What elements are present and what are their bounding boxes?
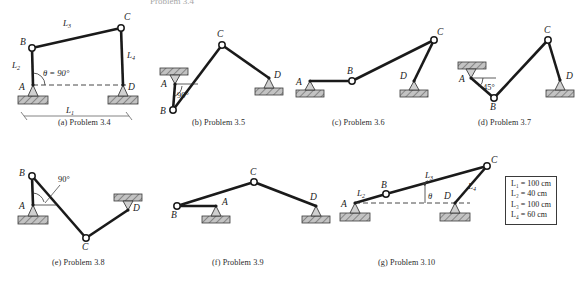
label-d-angle: 45° [483, 83, 495, 92]
diagram-f: A B C D [171, 167, 330, 223]
label-g-C: C [491, 155, 498, 165]
caption-g: (g) Problem 3.10 [378, 258, 435, 267]
link-e-CD [86, 210, 128, 238]
link-lengths-legend: L₁ = 100 cm L₂ = 40 cm L₃ = 100 cm L₄ = … [505, 176, 557, 225]
link-b-BC [173, 45, 222, 110]
label-c-D: D [399, 71, 407, 81]
joint-g-C [484, 163, 490, 169]
legend-row-L2: L₂ = 40 cm [511, 189, 551, 199]
label-a-A: A [18, 82, 25, 92]
joint-g-B [383, 191, 389, 197]
label-d-B: B [490, 102, 496, 112]
joint-b-D [267, 76, 270, 79]
ground-support-g-D [440, 203, 470, 221]
link-b-CD [222, 45, 269, 78]
joint-e-B [29, 173, 35, 179]
ground-support-f-D [302, 206, 330, 223]
joint-b-B [170, 107, 176, 113]
joint-e-A [31, 203, 34, 206]
figure-canvas: A B C D L2 L3 L4 L1 θ = 90° A B C D 90° [0, 0, 588, 281]
label-a-D: D [127, 82, 135, 92]
label-e-D: D [132, 203, 140, 213]
diagram-e: A B C D 90° [18, 168, 142, 252]
caption-a: (a) Problem 3.4 [58, 118, 111, 127]
link-f-CD [254, 182, 316, 206]
joint-c-A [308, 79, 311, 82]
label-b-angle: 90° [177, 91, 189, 100]
label-a-L3: L3 [62, 18, 71, 29]
label-f-B: B [171, 210, 177, 220]
label-f-A: A [221, 197, 228, 207]
joint-a-D [121, 83, 124, 86]
label-e-A: A [18, 201, 25, 211]
ground-support-b-D [255, 78, 283, 95]
label-e-B: B [19, 168, 25, 178]
label-b-B: B [160, 106, 166, 116]
label-g-A: A [340, 199, 347, 209]
joint-g-D [453, 201, 456, 204]
joint-f-A [214, 204, 217, 207]
angle-arc-e [33, 193, 44, 202]
mechanism-problems-figure: Problem 3.4 [0, 0, 588, 281]
link-f-BC [177, 182, 254, 206]
joint-g-A [353, 201, 356, 204]
label-g-D: D [443, 191, 451, 201]
joint-e-C [83, 235, 89, 241]
label-f-C: C [250, 167, 257, 177]
joint-f-D [314, 204, 317, 207]
label-c-B: B [347, 66, 353, 76]
diagram-g: A B C D L2 L3 L4 θ [340, 155, 498, 221]
label-b-C: C [217, 29, 224, 39]
label-c-C: C [437, 27, 444, 37]
legend-row-L1: L₁ = 100 cm [511, 179, 551, 189]
ground-support-f-A [202, 206, 230, 223]
diagram-d: A B C D 45° [458, 25, 574, 112]
joint-d-C [545, 37, 551, 43]
label-a-C: C [124, 12, 131, 22]
label-d-C: C [544, 25, 551, 35]
diagram-b: A B C D 90° [160, 29, 283, 116]
label-b-D: D [273, 70, 281, 80]
joint-d-B [491, 95, 497, 101]
label-a-L2: L2 [11, 60, 20, 71]
caption-c: (c) Problem 3.6 [332, 118, 385, 127]
joint-d-A [469, 76, 472, 79]
label-d-A: A [458, 74, 465, 84]
link-d-BC [494, 40, 548, 98]
label-f-D: D [309, 192, 317, 202]
caption-e: (e) Problem 3.8 [52, 258, 105, 267]
joint-c-C [431, 37, 437, 43]
joint-c-B [349, 78, 355, 84]
top-partial-heading: Problem 3.4 [150, 0, 194, 6]
legend-row-L3: L₃ = 100 cm [511, 200, 551, 210]
label-e-C: C [82, 242, 89, 252]
label-c-A: A [295, 77, 302, 87]
label-a-L4: L4 [126, 50, 135, 61]
label-d-D: D [565, 71, 573, 81]
legend-row-L4: L₄ = 60 cm [511, 210, 551, 220]
label-g-L2: L2 [356, 188, 365, 199]
label-a-B: B [20, 37, 26, 47]
caption-b: (b) Problem 3.5 [192, 118, 245, 127]
joint-a-B [29, 45, 35, 51]
label-e-angle: 90° [58, 175, 70, 184]
label-a-L1: L1 [65, 105, 74, 116]
joint-e-D [126, 208, 129, 211]
joint-b-C [219, 42, 225, 48]
caption-d: (d) Problem 3.7 [478, 118, 531, 127]
link-d-CD [548, 40, 560, 80]
joint-d-D [558, 78, 561, 81]
label-g-L4: L4 [467, 181, 476, 192]
label-g-L3: L3 [424, 170, 433, 181]
joint-b-A [173, 82, 176, 85]
joint-c-D [412, 79, 415, 82]
caption-f: (f) Problem 3.9 [212, 258, 264, 267]
link-c-BC [352, 40, 434, 81]
label-b-A: A [160, 79, 167, 89]
link-e-AB [32, 176, 33, 205]
ground-support-d-D [546, 80, 574, 97]
joint-f-B [174, 203, 180, 209]
label-g-angle: θ [428, 191, 433, 201]
link-a-L2 [32, 48, 33, 85]
diagram-c: A B C D [295, 27, 444, 97]
